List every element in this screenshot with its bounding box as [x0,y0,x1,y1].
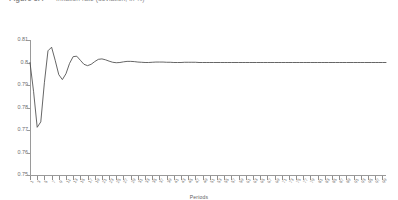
series-inflation-rate [30,47,386,127]
figure-caption-title: Inflation rate (deviation, in %) [56,0,145,2]
x-axis-title: Periods [0,194,398,200]
series-line-chart [0,14,398,200]
chart-plot-area: 0.750.760.770.780.790.80.81 135791113151… [0,14,398,200]
figure-caption-number: Figure 5.4 [9,0,44,3]
figure-caption: Figure 5.4 Inflation rate (deviation, in… [9,0,145,3]
